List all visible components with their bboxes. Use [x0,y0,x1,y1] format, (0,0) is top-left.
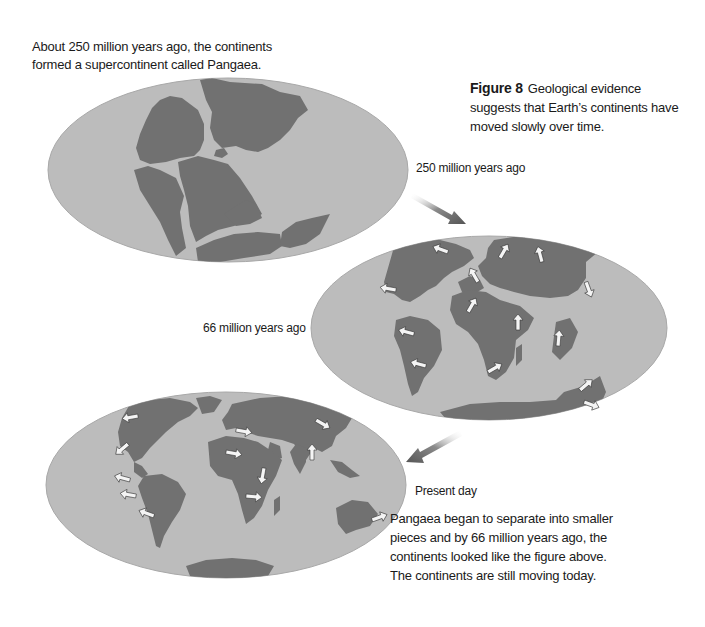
label-66-million: 66 million years ago [203,321,306,335]
map-pangaea [48,78,408,262]
transition-arrow-1 [411,193,466,224]
label-250-million: 250 million years ago [416,161,525,175]
label-present-day: Present day [415,484,477,498]
map-66-million [311,236,667,426]
intro-line: About 250 million years ago, the contine… [32,38,332,56]
figure-caption: Figure 8Geological evidence suggests tha… [470,79,690,136]
outro-line: pieces and by 66 million years ago, the [390,528,690,547]
intro-line: formed a supercontinent called Pangaea. [32,56,332,74]
outro-line: continents looked like the figure above. [390,547,690,566]
figure-number: Figure 8 [470,80,523,96]
intro-text: About 250 million years ago, the contine… [32,38,332,74]
transition-arrow-2 [406,430,462,463]
outro-text: Pangaea began to separate into smaller p… [390,509,690,585]
map-present-day [46,392,406,580]
outro-line: Pangaea began to separate into smaller [390,509,690,528]
outro-line: The continents are still moving today. [390,566,690,585]
